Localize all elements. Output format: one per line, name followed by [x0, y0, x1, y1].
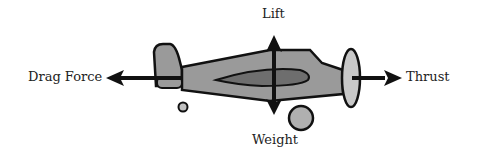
lift-label: Lift: [262, 6, 285, 21]
thrust-label: Thrust: [406, 69, 450, 84]
tail-wheel: [179, 103, 188, 112]
weight-label: Weight: [252, 132, 298, 147]
main-wheel: [289, 106, 313, 130]
drag-force-label: Drag Force: [28, 69, 102, 84]
forces-diagram: Drag Force Lift Thrust Weight: [0, 0, 479, 159]
